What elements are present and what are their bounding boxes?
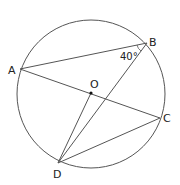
label-o: O [90, 78, 99, 91]
label-a: A [8, 64, 16, 77]
segment-od [58, 93, 91, 163]
label-b: B [149, 36, 157, 49]
label-c: C [163, 112, 171, 125]
segment-dc [58, 118, 160, 163]
center-point-o [89, 91, 92, 94]
diagram-svg: A B C D O 40° [0, 0, 180, 185]
circle-diagram: A B C D O 40° [0, 0, 180, 185]
label-d: D [53, 168, 61, 181]
angle-label-b: 40° [120, 51, 138, 62]
